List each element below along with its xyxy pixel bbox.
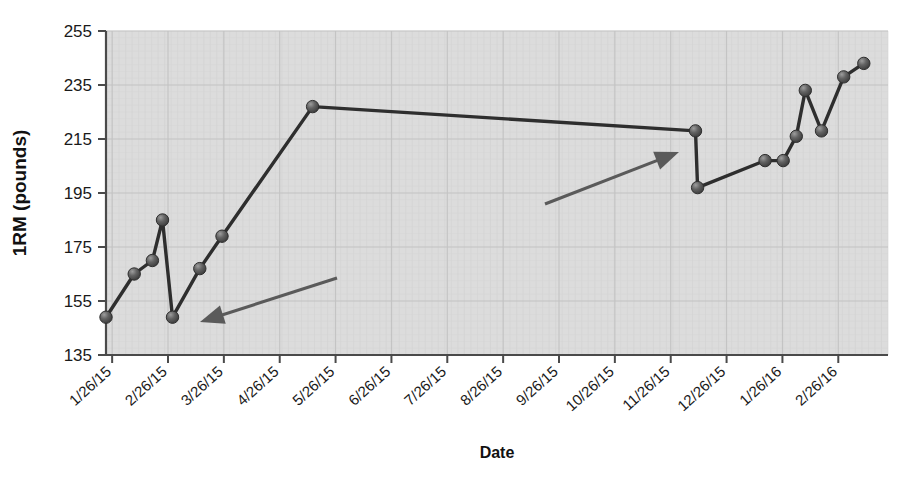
data-point-marker <box>146 254 158 266</box>
data-point-marker <box>691 181 703 193</box>
data-point-marker <box>689 125 701 137</box>
y-tick-label: 215 <box>64 130 92 149</box>
data-point-marker <box>128 268 140 280</box>
data-point-marker <box>858 57 870 69</box>
data-point-marker <box>799 84 811 96</box>
data-point-marker <box>166 311 178 323</box>
data-point-marker <box>306 100 318 112</box>
data-point-marker <box>156 214 168 226</box>
y-tick-label: 255 <box>64 22 92 41</box>
data-point-marker <box>216 230 228 242</box>
data-point-marker <box>838 71 850 83</box>
y-axis-title: 1RM (pounds) <box>9 130 30 257</box>
y-tick-label: 235 <box>64 76 92 95</box>
chart-svg: 135155175195215235255 1/26/152/26/153/26… <box>0 0 904 477</box>
data-point-marker <box>100 311 112 323</box>
y-tick-label: 135 <box>64 346 92 365</box>
data-point-marker <box>777 154 789 166</box>
x-axis-title: Date <box>480 444 515 461</box>
data-point-marker <box>194 262 206 274</box>
y-tick-label: 155 <box>64 292 92 311</box>
data-point-marker <box>815 125 827 137</box>
data-point-marker <box>759 154 771 166</box>
y-tick-label: 175 <box>64 238 92 257</box>
chart-figure: 135155175195215235255 1/26/152/26/153/26… <box>0 0 904 477</box>
y-tick-label: 195 <box>64 184 92 203</box>
data-point-marker <box>790 130 802 142</box>
